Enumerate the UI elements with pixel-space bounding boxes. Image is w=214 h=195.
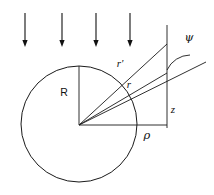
- label-radius: R: [60, 86, 68, 98]
- incident-arrow-head: [127, 40, 132, 47]
- incident-arrow-head: [93, 40, 98, 47]
- label-r-prime: r': [117, 57, 124, 69]
- geometry-diagram: R r' r z ρ ψ: [0, 0, 214, 195]
- figure-container: R r' r z ρ ψ: [0, 0, 214, 195]
- incident-wave-arrows: [22, 13, 132, 47]
- label-z: z: [170, 103, 176, 115]
- r-line: [79, 73, 167, 125]
- label-rho: ρ: [143, 128, 151, 142]
- psi-angle-arc: [167, 55, 190, 70]
- incident-arrow-head: [22, 40, 27, 47]
- label-r: r: [127, 78, 132, 90]
- incident-arrow-head: [59, 40, 64, 47]
- label-psi: ψ: [184, 30, 194, 44]
- scattered-ray-line: [79, 62, 206, 125]
